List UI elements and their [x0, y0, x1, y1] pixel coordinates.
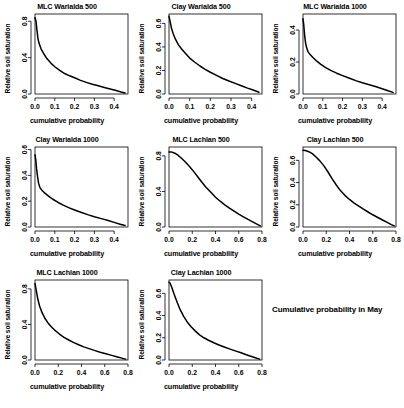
svg-text:0.2: 0.2	[70, 103, 80, 110]
svg-text:0.2: 0.2	[289, 57, 296, 67]
svg-text:0.4: 0.4	[109, 103, 119, 110]
svg-text:0.0: 0.0	[164, 369, 174, 376]
svg-text:0.2: 0.2	[338, 103, 348, 110]
data-curve	[303, 150, 394, 226]
svg-text:0.6: 0.6	[234, 369, 244, 376]
svg-text:0.0: 0.0	[21, 355, 28, 365]
svg-text:0.2: 0.2	[289, 200, 296, 210]
svg-text:0.8: 0.8	[21, 16, 28, 26]
svg-text:0.4: 0.4	[21, 53, 28, 63]
x-axis-label: cumulative probability	[268, 249, 402, 258]
chart-panel: MLC Lachlan 5000.00.20.40.60.80.00.40.8c…	[134, 133, 268, 261]
svg-text:0.1: 0.1	[50, 236, 60, 243]
svg-text:0.0: 0.0	[155, 355, 162, 365]
svg-text:0.4: 0.4	[211, 369, 221, 376]
data-curve	[169, 16, 259, 92]
svg-text:0.2: 0.2	[54, 369, 64, 376]
svg-text:0.8: 0.8	[257, 236, 267, 243]
svg-text:0.0: 0.0	[164, 103, 174, 110]
svg-text:0.6: 0.6	[234, 236, 244, 243]
svg-text:0.4: 0.4	[345, 236, 355, 243]
svg-text:0.3: 0.3	[226, 103, 236, 110]
svg-text:0.0: 0.0	[155, 89, 162, 99]
svg-text:0.1: 0.1	[50, 103, 60, 110]
figure-multipanel-chart: MLC Warialda 5000.00.10.20.30.40.00.40.8…	[0, 0, 404, 408]
svg-text:0.0: 0.0	[298, 103, 308, 110]
svg-text:0.2: 0.2	[188, 369, 198, 376]
svg-text:0.3: 0.3	[90, 103, 100, 110]
svg-text:0.2: 0.2	[155, 333, 162, 343]
svg-text:0.6: 0.6	[368, 236, 378, 243]
data-curve	[169, 152, 260, 226]
svg-text:0.0: 0.0	[21, 222, 28, 232]
y-axis-label: Relative soil saturation	[4, 277, 11, 373]
x-axis-label: cumulative probability	[268, 116, 402, 125]
svg-text:0.0: 0.0	[21, 89, 28, 99]
svg-text:0.8: 0.8	[123, 369, 133, 376]
svg-text:0.2: 0.2	[206, 103, 216, 110]
plot-area: 0.00.20.40.60.80.00.40.8	[134, 133, 268, 261]
plot-area: 0.00.10.20.30.40.00.40.8	[0, 0, 134, 128]
data-curve	[35, 18, 125, 93]
plot-area: 0.00.20.40.60.80.00.20.40.6	[134, 266, 268, 394]
svg-text:0.6: 0.6	[21, 145, 28, 155]
svg-text:0.4: 0.4	[109, 236, 119, 243]
figure-caption: Cumulative probability in May	[272, 305, 382, 314]
svg-text:0.2: 0.2	[21, 196, 28, 206]
x-axis-label: cumulative probability	[134, 249, 268, 258]
chart-panel: MLC Warialda 10000.00.10.20.30.40.00.20.…	[268, 0, 402, 128]
svg-text:0.0: 0.0	[30, 369, 40, 376]
plot-area: 0.00.20.40.60.80.00.20.40.6	[268, 133, 402, 261]
svg-text:0.0: 0.0	[164, 236, 174, 243]
svg-text:0.4: 0.4	[247, 103, 257, 110]
svg-text:0.8: 0.8	[391, 236, 401, 243]
plot-area: 0.00.20.40.60.80.00.40.8	[0, 266, 134, 394]
svg-text:0.4: 0.4	[289, 25, 296, 35]
chart-panel: Clay Warialda 5000.00.10.20.30.40.00.20.…	[134, 0, 268, 128]
x-axis-label: cumulative probability	[134, 116, 268, 125]
svg-text:0.0: 0.0	[289, 89, 296, 99]
chart-panel: Clay Warialda 10000.00.10.20.30.40.00.20…	[0, 133, 134, 261]
svg-text:0.6: 0.6	[155, 288, 162, 298]
svg-text:0.4: 0.4	[211, 236, 221, 243]
svg-text:0.4: 0.4	[77, 369, 87, 376]
plot-area: 0.00.10.20.30.40.00.20.40.6	[134, 0, 268, 128]
data-curve	[35, 284, 126, 360]
svg-text:0.0: 0.0	[30, 236, 40, 243]
data-curve	[169, 282, 260, 359]
svg-text:0.4: 0.4	[377, 103, 387, 110]
plot-area: 0.00.10.20.30.40.00.20.40.6	[0, 133, 134, 261]
svg-text:0.2: 0.2	[70, 236, 80, 243]
svg-text:0.0: 0.0	[155, 222, 162, 232]
svg-text:0.8: 0.8	[155, 151, 162, 161]
data-curve	[35, 155, 125, 226]
svg-text:0.6: 0.6	[155, 18, 162, 28]
data-curve	[303, 19, 393, 93]
chart-panel: MLC Warialda 5000.00.10.20.30.40.00.40.8…	[0, 0, 134, 128]
svg-text:0.3: 0.3	[358, 103, 368, 110]
x-axis-label: cumulative probability	[0, 249, 134, 258]
svg-text:0.6: 0.6	[289, 155, 296, 165]
svg-text:0.4: 0.4	[155, 187, 162, 197]
y-axis-label: Relative soil saturation	[138, 277, 145, 373]
svg-text:0.4: 0.4	[21, 170, 28, 180]
chart-panel: Clay Lachlan 10000.00.20.40.60.80.00.20.…	[134, 266, 268, 394]
y-axis-label: Relative soil saturation	[138, 144, 145, 240]
svg-text:0.1: 0.1	[185, 103, 195, 110]
svg-text:0.2: 0.2	[155, 66, 162, 76]
y-axis-label: Relative soil saturation	[4, 11, 11, 107]
svg-text:0.8: 0.8	[21, 284, 28, 294]
chart-panel: Clay Lachlan 5000.00.20.40.60.80.00.20.4…	[268, 133, 402, 261]
x-axis-label: cumulative probability	[0, 382, 134, 391]
svg-text:0.6: 0.6	[100, 369, 110, 376]
y-axis-label: Relative soil saturation	[138, 11, 145, 107]
svg-text:0.4: 0.4	[21, 320, 28, 330]
x-axis-label: cumulative probability	[0, 116, 134, 125]
svg-text:0.4: 0.4	[155, 42, 162, 52]
svg-text:0.0: 0.0	[30, 103, 40, 110]
svg-text:0.4: 0.4	[289, 178, 296, 188]
x-axis-label: cumulative probability	[134, 382, 268, 391]
plot-area: 0.00.10.20.30.40.00.20.4	[268, 0, 402, 128]
svg-text:0.0: 0.0	[289, 222, 296, 232]
chart-panel: MLC Lachlan 10000.00.20.40.60.80.00.40.8…	[0, 266, 134, 394]
